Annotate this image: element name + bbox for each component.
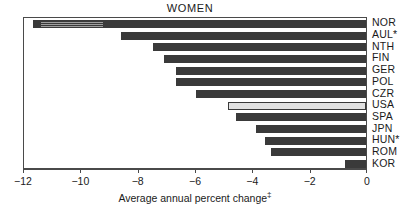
bar-row bbox=[24, 43, 366, 51]
bar-fin bbox=[164, 55, 366, 63]
category-label-pol: POL bbox=[372, 76, 394, 87]
x-tick-label: −8 bbox=[132, 175, 144, 187]
category-label-hun: HUN* bbox=[372, 134, 400, 145]
scan-artifact bbox=[41, 22, 103, 28]
category-label-rom: ROM bbox=[372, 146, 397, 157]
category-label-czr: CZR bbox=[372, 88, 394, 99]
bar-row bbox=[24, 90, 366, 98]
x-axis-title: Average annual percent change‡ bbox=[23, 190, 367, 204]
bar-aul bbox=[121, 32, 366, 40]
x-tick-label: −12 bbox=[14, 175, 32, 187]
bar-hun bbox=[265, 137, 366, 145]
x-tick-label: 0 bbox=[364, 175, 370, 187]
x-tick-label: −6 bbox=[189, 175, 201, 187]
x-tick-label: −2 bbox=[304, 175, 316, 187]
category-axis-labels: NORAUL*NTHFINGERPOLCZRUSASPAJPNHUN*ROMKO… bbox=[372, 17, 418, 169]
bar-jpn bbox=[256, 125, 366, 133]
bar-nth bbox=[153, 43, 366, 51]
category-label-jpn: JPN bbox=[372, 123, 392, 134]
category-label-aul: AUL* bbox=[372, 29, 397, 40]
chart-figure: WOMEN NORAUL*NTHFINGERPOLCZRUSASPAJPNHUN… bbox=[0, 0, 418, 212]
footnote-marker-icon: ‡ bbox=[267, 190, 271, 199]
category-label-spa: SPA bbox=[372, 111, 393, 122]
chart-title: WOMEN bbox=[0, 2, 380, 14]
bar-row bbox=[24, 67, 366, 75]
x-tick-label: −4 bbox=[246, 175, 258, 187]
bar-row bbox=[24, 148, 366, 156]
x-axis: −12−10−8−6−4−20 bbox=[23, 169, 367, 170]
x-tick bbox=[366, 169, 367, 173]
x-tick bbox=[252, 169, 253, 173]
bar-usa bbox=[228, 102, 366, 110]
x-tick bbox=[23, 169, 24, 173]
bar-row bbox=[24, 137, 366, 145]
bar-row bbox=[24, 125, 366, 133]
bar-row bbox=[24, 32, 366, 40]
bar-rom bbox=[271, 148, 366, 156]
x-tick bbox=[195, 169, 196, 173]
bar-czr bbox=[196, 90, 366, 98]
plot-area bbox=[23, 17, 367, 169]
bar-row bbox=[24, 160, 366, 168]
bar-spa bbox=[236, 113, 366, 121]
bar-row bbox=[24, 78, 366, 86]
bar-row bbox=[24, 20, 366, 28]
bar-row bbox=[24, 55, 366, 63]
x-tick bbox=[80, 169, 81, 173]
x-axis-title-text: Average annual percent change bbox=[118, 192, 267, 204]
category-label-ger: GER bbox=[372, 64, 395, 75]
bar-pol bbox=[176, 78, 366, 86]
bar-row bbox=[24, 102, 366, 110]
category-label-fin: FIN bbox=[372, 52, 390, 63]
bar-row bbox=[24, 113, 366, 121]
category-label-usa: USA bbox=[372, 99, 394, 110]
x-tick bbox=[138, 169, 139, 173]
x-tick bbox=[310, 169, 311, 173]
bar-nor bbox=[33, 20, 366, 28]
bar-kor bbox=[345, 160, 366, 168]
category-label-kor: KOR bbox=[372, 158, 395, 169]
category-label-nor: NOR bbox=[372, 17, 396, 28]
bar-ger bbox=[176, 67, 366, 75]
x-tick-label: −10 bbox=[71, 175, 89, 187]
category-label-nth: NTH bbox=[372, 41, 394, 52]
bars-layer bbox=[24, 18, 366, 168]
